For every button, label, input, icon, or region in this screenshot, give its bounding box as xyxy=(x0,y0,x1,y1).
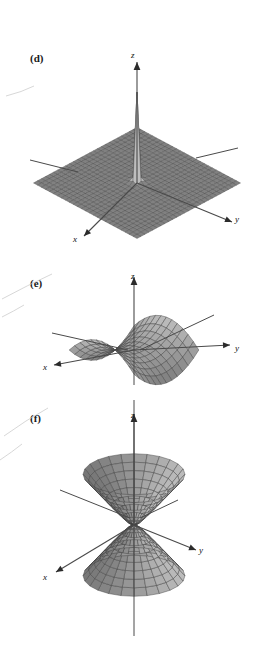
stray-scan-marks-d xyxy=(6,86,34,96)
axis-label-z-f: z xyxy=(131,410,135,420)
axis-label-z-d: z xyxy=(131,50,135,60)
stray-scan-marks-f xyxy=(0,408,48,460)
surface-plot-f xyxy=(0,400,259,664)
axis-label-x-f: x xyxy=(43,572,47,582)
stray-scan-marks-e xyxy=(2,274,52,317)
panel-e: (e) z y x xyxy=(0,255,259,415)
surface-plot-e xyxy=(0,255,259,415)
panel-d: (d) z y x xyxy=(0,0,259,255)
axis-label-y-e: y xyxy=(235,343,239,353)
axis-label-x-d: x xyxy=(73,234,77,244)
panel-f: (f) z y x xyxy=(0,400,259,664)
axis-label-x-e: x xyxy=(43,362,47,372)
axis-label-y-f: y xyxy=(199,545,203,555)
axis-label-z-e: z xyxy=(131,271,135,281)
surface-plot-d xyxy=(0,0,259,255)
axis-label-y-d: y xyxy=(235,214,239,224)
figure-page: (d) z y x (e) z y x (f) xyxy=(0,0,259,664)
